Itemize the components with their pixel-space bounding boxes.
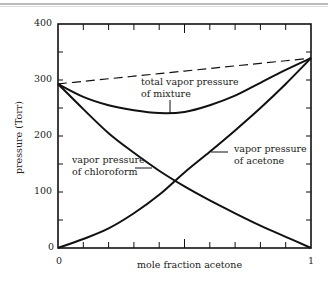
annotation-total-line2: of mixture bbox=[141, 88, 239, 100]
annotation-total-line1: total vapor pressure bbox=[141, 76, 239, 88]
annotation-chloroform: vapor pressure of chloroform bbox=[72, 154, 145, 178]
x-tick-1: 1 bbox=[308, 255, 314, 266]
annotation-total: total vapor pressure of mixture bbox=[141, 76, 239, 100]
y-axis-label: pressure (Torr) bbox=[13, 101, 24, 174]
y-tick-100: 100 bbox=[34, 185, 52, 196]
annotation-chloroform-line1: vapor pressure bbox=[72, 154, 145, 166]
annotation-acetone-line2: of acetone bbox=[234, 155, 307, 167]
annotation-acetone-line1: vapor pressure bbox=[234, 143, 307, 155]
annotation-chloroform-line2: of chloroform bbox=[72, 166, 145, 178]
annotation-acetone: vapor pressure of acetone bbox=[234, 143, 307, 167]
y-tick-400: 400 bbox=[34, 17, 52, 28]
y-tick-300: 300 bbox=[34, 73, 52, 84]
plot-frame bbox=[58, 24, 311, 248]
y-tick-200: 200 bbox=[34, 129, 52, 140]
y-tick-0: 0 bbox=[48, 241, 54, 252]
x-tick-0: 0 bbox=[56, 255, 62, 266]
x-axis-label: mole fraction acetone bbox=[137, 259, 242, 270]
